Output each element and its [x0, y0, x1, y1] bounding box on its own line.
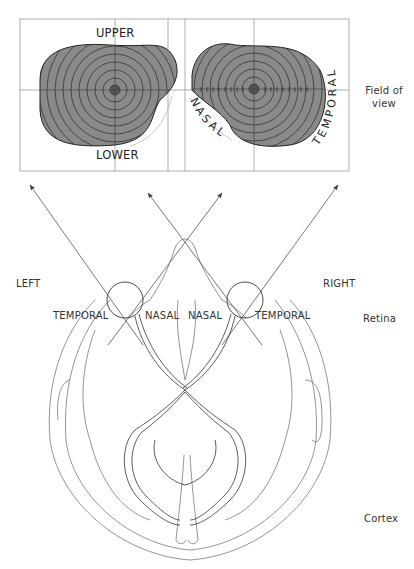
optic-pathway	[124, 314, 245, 525]
left-label: LEFT	[16, 278, 40, 289]
temporal-right-label: TEMPORAL	[255, 310, 311, 321]
sight-lines	[30, 185, 338, 345]
temporal-left-label: TEMPORAL	[53, 310, 109, 321]
upper-label: UPPER	[96, 26, 135, 40]
lower-label: LOWER	[96, 148, 139, 162]
brain-outline	[49, 239, 331, 560]
cortex-label: Cortex	[364, 513, 398, 524]
retina-label: Retina	[363, 313, 396, 324]
nasal-right-label: NASAL	[188, 310, 222, 321]
right-label: RIGHT	[323, 278, 355, 289]
field-of-view-line1: Field of	[356, 84, 412, 97]
nasal-left-label: NASAL	[145, 310, 179, 321]
field-of-view-line2: view	[356, 97, 412, 110]
right-eye-visual-field	[178, 13, 349, 171]
field-of-view-label: Field of view	[356, 84, 412, 110]
eyeballs	[107, 282, 263, 318]
